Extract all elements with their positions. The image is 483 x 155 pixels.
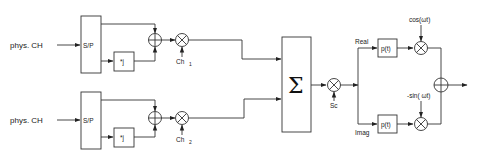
branch-2-j-label: *j xyxy=(120,134,124,142)
branch-1-adder-icon xyxy=(149,34,162,47)
imag-label: Imag xyxy=(355,129,370,137)
sum-symbol: Σ xyxy=(288,73,304,98)
branch-1-real-path xyxy=(101,24,155,33)
sin-multiplier-icon xyxy=(415,118,428,131)
output-adder-icon xyxy=(434,78,448,92)
branch-2-to-sum xyxy=(189,99,282,118)
branch-1-channel-label: Ch xyxy=(176,58,185,65)
branch-2-j-out xyxy=(134,125,155,137)
branch-2-multiplier-icon xyxy=(176,112,189,125)
branch-2-input-label: phys. CH xyxy=(10,116,43,125)
branch-1-channel-sub: 1 xyxy=(189,61,192,67)
cos-multiplier-icon xyxy=(415,42,428,55)
branch-1: phys. CH S/P *j Ch 1 xyxy=(10,16,281,73)
branch-2: phys. CH S/P *j Ch 2 xyxy=(10,92,281,149)
block-diagram: phys. CH S/P *j Ch 1 phys. CH xyxy=(0,0,483,155)
branch-1-to-sum xyxy=(189,40,282,59)
carrier-cos-label: cos(ωt) xyxy=(409,16,430,24)
branch-1-multiplier-icon xyxy=(176,34,189,47)
scrambling-label: Sc xyxy=(330,102,338,109)
branch-1-j-out xyxy=(134,47,155,61)
pulse-shape-real-label: p(t) xyxy=(381,45,391,53)
branch-1-j-label: *j xyxy=(120,58,124,66)
cos-to-adder xyxy=(428,48,442,78)
branch-1-input-label: phys. CH xyxy=(10,41,43,50)
branch-2-real-path xyxy=(101,100,155,111)
real-label: Real xyxy=(355,38,369,45)
branch-2-sp-label: S/P xyxy=(83,117,93,124)
branch-1-sp-label: S/P xyxy=(83,42,93,49)
branch-2-j-block xyxy=(114,128,134,147)
branch-1-j-block xyxy=(114,52,134,71)
branch-2-adder-icon xyxy=(149,112,162,125)
branch-2-channel-label: Ch xyxy=(176,136,185,143)
branch-2-channel-sub: 2 xyxy=(189,139,192,145)
pulse-shape-imag-label: p(t) xyxy=(381,121,391,129)
carrier-sin-label: -sin( ωt) xyxy=(407,92,431,100)
scrambling-multiplier-icon xyxy=(328,79,341,92)
